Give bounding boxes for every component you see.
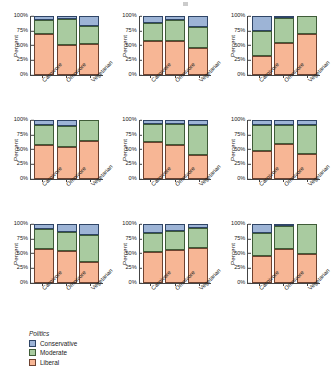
segment-moderate[interactable]	[252, 125, 272, 151]
small-multiples-grid: Percent100%75%50%25%0%CarnivoreOmnivoreV…	[0, 8, 326, 320]
segment-conservative[interactable]	[79, 224, 99, 235]
chart-panel-8: Percent100%75%50%25%0%CarnivoreOmnivoreV…	[109, 216, 218, 320]
segment-moderate[interactable]	[143, 124, 163, 142]
y-axis-tick: 75%	[234, 236, 248, 242]
segment-moderate[interactable]	[188, 125, 208, 155]
panel-plot-area: Percent100%75%50%25%0%	[247, 16, 320, 76]
stacked-bars	[248, 224, 320, 283]
chart-panel-1: Percent100%75%50%25%0%CarnivoreOmnivoreV…	[0, 8, 109, 112]
segment-moderate[interactable]	[297, 224, 317, 254]
y-axis-tick: 25%	[125, 161, 139, 167]
legend-swatch-icon	[29, 340, 36, 347]
x-axis-ticks: CarnivoreOmnivoreVegetarian	[139, 78, 212, 112]
stacked-bars	[248, 120, 320, 179]
y-axis-tick: 75%	[17, 28, 31, 34]
x-axis-ticks: CarnivoreOmnivoreVegetarian	[30, 182, 103, 216]
segment-moderate[interactable]	[165, 124, 185, 145]
panel-plot-area: Percent100%75%50%25%0%	[30, 120, 103, 180]
segment-moderate[interactable]	[79, 26, 99, 44]
chart-panel-9: Percent100%75%50%25%0%CarnivoreOmnivoreV…	[217, 216, 326, 320]
bar-carnivore[interactable]	[143, 120, 163, 179]
plot-frame: 100%75%50%25%0%	[139, 120, 212, 180]
bar-carnivore[interactable]	[143, 16, 163, 75]
segment-conservative[interactable]	[57, 224, 77, 232]
x-axis-ticks: CarnivoreOmnivoreVegetarian	[139, 182, 212, 216]
segment-moderate[interactable]	[252, 233, 272, 256]
segment-moderate[interactable]	[252, 31, 272, 56]
legend-item-moderate[interactable]: Moderate	[29, 349, 77, 356]
plot-frame: 100%75%50%25%0%	[30, 224, 103, 284]
bar-carnivore[interactable]	[34, 224, 54, 283]
stacked-bars	[248, 16, 320, 75]
segment-conservative[interactable]	[252, 224, 272, 233]
legend-label: Liberal	[40, 359, 59, 366]
segment-moderate[interactable]	[165, 20, 185, 42]
y-axis-tick: 0%	[20, 72, 31, 78]
segment-moderate[interactable]	[57, 232, 77, 251]
segment-liberal[interactable]	[79, 44, 99, 75]
segment-moderate[interactable]	[34, 229, 54, 249]
segment-moderate[interactable]	[274, 226, 294, 249]
plot-frame: 100%75%50%25%0%	[139, 224, 212, 284]
y-axis-tick: 50%	[125, 251, 139, 257]
y-axis-tick: 0%	[20, 280, 31, 286]
panel-plot-area: Percent100%75%50%25%0%	[139, 120, 212, 180]
segment-conservative[interactable]	[143, 16, 163, 23]
panel-plot-area: Percent100%75%50%25%0%	[247, 224, 320, 284]
y-axis-tick: 100%	[122, 13, 139, 19]
chart-panel-3: Percent100%75%50%25%0%CarnivoreOmnivoreV…	[217, 8, 326, 112]
x-axis-ticks: CarnivoreOmnivoreVegetarian	[30, 286, 103, 320]
y-axis-tick: 75%	[125, 236, 139, 242]
plot-frame: 100%75%50%25%0%	[247, 224, 320, 284]
segment-moderate[interactable]	[57, 19, 77, 45]
segment-conservative[interactable]	[252, 16, 272, 31]
segment-moderate[interactable]	[143, 23, 163, 41]
segment-moderate[interactable]	[188, 228, 208, 248]
legend-swatch-icon	[29, 349, 36, 356]
segment-moderate[interactable]	[297, 125, 317, 153]
y-axis-tick: 0%	[129, 280, 140, 286]
y-axis-tick: 25%	[17, 161, 31, 167]
x-axis-ticks: CarnivoreOmnivoreVegetarian	[30, 78, 103, 112]
segment-moderate[interactable]	[143, 233, 163, 252]
segment-conservative[interactable]	[79, 16, 99, 26]
legend-label: Moderate	[40, 349, 67, 356]
stacked-bars	[31, 16, 103, 75]
segment-moderate[interactable]	[188, 27, 208, 48]
bar-carnivore[interactable]	[252, 120, 272, 179]
stacked-bars	[140, 224, 212, 283]
segment-moderate[interactable]	[34, 20, 54, 34]
chart-panel-5: Percent100%75%50%25%0%CarnivoreOmnivoreV…	[109, 112, 218, 216]
segment-conservative[interactable]	[143, 224, 163, 233]
stacked-bars	[31, 224, 103, 283]
y-axis-tick: 75%	[17, 132, 31, 138]
segment-moderate[interactable]	[79, 235, 99, 263]
x-axis-ticks: CarnivoreOmnivoreVegetarian	[139, 286, 212, 320]
legend-item-liberal[interactable]: Liberal	[29, 359, 77, 366]
y-axis-tick: 100%	[231, 221, 248, 227]
segment-moderate[interactable]	[297, 16, 317, 34]
bar-carnivore[interactable]	[143, 224, 163, 283]
segment-conservative[interactable]	[188, 16, 208, 27]
segment-conservative[interactable]	[165, 224, 185, 231]
bar-carnivore[interactable]	[252, 224, 272, 283]
y-axis-tick: 75%	[17, 236, 31, 242]
segment-moderate[interactable]	[165, 231, 185, 250]
segment-moderate[interactable]	[57, 126, 77, 146]
bar-carnivore[interactable]	[252, 16, 272, 75]
y-axis-tick: 0%	[237, 280, 248, 286]
x-axis-ticks: CarnivoreOmnivoreVegetarian	[247, 78, 320, 112]
plot-frame: 100%75%50%25%0%	[247, 120, 320, 180]
segment-moderate[interactable]	[274, 125, 294, 144]
plot-frame: 100%75%50%25%0%	[139, 16, 212, 76]
y-axis-tick: 75%	[234, 132, 248, 138]
segment-moderate[interactable]	[34, 125, 54, 144]
bar-carnivore[interactable]	[34, 120, 54, 179]
y-axis-tick: 100%	[231, 13, 248, 19]
plot-frame: 100%75%50%25%0%	[30, 120, 103, 180]
y-axis-tick: 50%	[234, 43, 248, 49]
bar-carnivore[interactable]	[34, 16, 54, 75]
segment-moderate[interactable]	[274, 18, 294, 42]
legend-item-conservative[interactable]: Conservative	[29, 340, 77, 347]
segment-moderate[interactable]	[79, 120, 99, 141]
